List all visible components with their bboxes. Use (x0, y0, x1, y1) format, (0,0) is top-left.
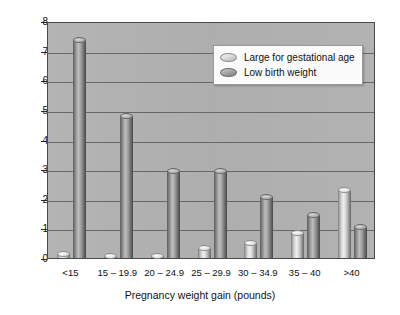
y-axis-tick-label: 4 (26, 136, 48, 146)
bar-body (214, 171, 227, 258)
bar-body (338, 190, 351, 258)
bar-cap (198, 245, 211, 251)
y-axis-tick-label: 0 (26, 254, 48, 264)
x-axis-tick-label: 30 – 34.9 (234, 267, 281, 278)
bar-cap (338, 187, 351, 193)
chart-legend: Large for gestational age Low birth weig… (213, 45, 363, 85)
x-axis-tick-label: 35 – 40 (281, 267, 328, 278)
bar-body (354, 227, 367, 258)
legend-label: Low birth weight (244, 67, 316, 78)
legend-swatch-low-birth-weight (220, 68, 237, 77)
bar-cap (104, 253, 117, 259)
bar-large-for-gestational-age (198, 245, 211, 258)
chart-figure: Percent incidence 012345678 <1515 – 19.9… (0, 0, 400, 315)
bar-body (167, 171, 180, 258)
y-axis-tick-label: 2 (26, 195, 48, 205)
y-axis-tick-label: 7 (26, 47, 48, 57)
bar-large-for-gestational-age (151, 253, 164, 258)
bar-low-birth-weight (354, 224, 367, 258)
bar-low-birth-weight (167, 168, 180, 258)
bar-low-birth-weight (260, 194, 273, 258)
bar-cap (354, 224, 367, 230)
y-axis-tick-label: 5 (26, 106, 48, 116)
bar-low-birth-weight (73, 37, 86, 258)
bar-cap (214, 168, 227, 174)
bar-body (260, 197, 273, 258)
legend-item: Low birth weight (220, 65, 355, 80)
legend-item: Large for gestational age (220, 50, 355, 65)
bar-low-birth-weight (120, 113, 133, 258)
bar-large-for-gestational-age (244, 240, 257, 258)
gridline (48, 142, 374, 143)
bar-cap (120, 113, 133, 119)
gridline (48, 112, 374, 113)
y-axis-tick-label: 6 (26, 76, 48, 86)
legend-swatch-large-for-gestational-age (220, 53, 237, 62)
bar-body (307, 215, 320, 258)
y-axis-tick-label: 1 (26, 224, 48, 234)
bar-cap (291, 230, 304, 236)
bar-large-for-gestational-age (291, 230, 304, 258)
bar-low-birth-weight (214, 168, 227, 258)
bar-cap (151, 253, 164, 259)
x-axis-tick-label: 25 – 29.9 (188, 267, 235, 278)
gridline (48, 171, 374, 172)
x-axis-tick-label: 20 – 24.9 (141, 267, 188, 278)
bar-large-for-gestational-age (338, 187, 351, 258)
bar-body (291, 233, 304, 258)
gridline (48, 230, 374, 231)
x-axis-title: Pregnancy weight gain (pounds) (0, 289, 400, 301)
x-axis-tick-label: 15 – 19.9 (94, 267, 141, 278)
gridline (48, 201, 374, 202)
bar-low-birth-weight (307, 212, 320, 258)
y-axis-tick-label: 8 (26, 17, 48, 27)
bar-body (120, 116, 133, 258)
x-axis-tick-label: <15 (47, 267, 94, 278)
bar-body (73, 40, 86, 258)
bar-large-for-gestational-age (57, 251, 70, 258)
x-axis-tick-label: >40 (328, 267, 375, 278)
y-axis-tick-label: 3 (26, 165, 48, 175)
bar-large-for-gestational-age (104, 253, 117, 258)
bar-cap (57, 251, 70, 257)
legend-label: Large for gestational age (244, 52, 355, 63)
bar-cap (167, 168, 180, 174)
